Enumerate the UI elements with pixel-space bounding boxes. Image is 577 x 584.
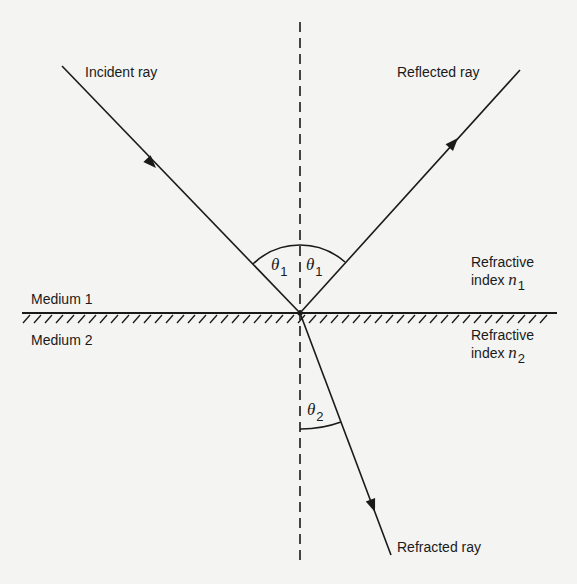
medium-1-label: Medium 1 xyxy=(31,291,92,307)
hatch-mark xyxy=(452,315,459,323)
hatch-mark xyxy=(155,315,162,323)
theta-symbol: θ xyxy=(271,255,279,274)
hatch-mark xyxy=(100,315,107,323)
refraction-angle-label: θ2 xyxy=(307,400,324,420)
hatch-mark xyxy=(122,315,129,323)
n-symbol: n xyxy=(508,270,517,289)
reflection-angle-label: θ1 xyxy=(306,255,323,275)
n-symbol: n xyxy=(508,343,517,362)
hatch-mark xyxy=(331,315,338,323)
hatch-mark xyxy=(89,315,96,323)
index-prefix: index xyxy=(471,345,508,361)
refractive-index-1-line1: Refractive xyxy=(471,254,534,271)
interface-hatching xyxy=(23,315,547,323)
hatch-mark xyxy=(221,315,228,323)
hatch-mark xyxy=(540,315,547,323)
refracted-ray-label: Refracted ray xyxy=(397,539,481,555)
hatch-mark xyxy=(133,315,140,323)
point-of-incidence xyxy=(297,310,302,315)
refractive-index-1-line2: index n1 xyxy=(471,271,534,289)
hatch-mark xyxy=(210,315,217,323)
theta-subscript: 2 xyxy=(316,409,323,424)
n-subscript: 1 xyxy=(518,278,525,293)
hatch-mark xyxy=(254,315,261,323)
hatch-mark xyxy=(474,315,481,323)
hatch-mark xyxy=(276,315,283,323)
hatch-mark xyxy=(496,315,503,323)
refracted-arrowhead-icon xyxy=(366,498,380,514)
hatch-mark xyxy=(353,315,360,323)
hatch-mark xyxy=(166,315,173,323)
hatch-mark xyxy=(287,315,294,323)
incident-arrowhead-icon xyxy=(143,155,159,171)
n-subscript: 2 xyxy=(518,351,525,366)
incident-ray xyxy=(62,66,300,313)
refractive-index-1-label: Refractive index n1 xyxy=(471,254,534,289)
refracted-ray xyxy=(300,313,391,555)
hatch-mark xyxy=(199,315,206,323)
hatch-mark xyxy=(320,315,327,323)
hatch-mark xyxy=(375,315,382,323)
hatch-mark xyxy=(342,315,349,323)
theta-symbol: θ xyxy=(307,400,315,419)
hatch-mark xyxy=(430,315,437,323)
theta-symbol: θ xyxy=(306,255,314,274)
refractive-index-2-label: Refractive index n2 xyxy=(471,327,534,362)
hatch-mark xyxy=(529,315,536,323)
medium-2-label: Medium 2 xyxy=(31,332,92,348)
hatch-mark xyxy=(34,315,41,323)
hatch-mark xyxy=(408,315,415,323)
hatch-mark xyxy=(56,315,63,323)
hatch-mark xyxy=(232,315,239,323)
index-prefix: index xyxy=(471,272,508,288)
hatch-mark xyxy=(45,315,52,323)
reflected-ray-label: Reflected ray xyxy=(397,64,479,80)
hatch-mark xyxy=(111,315,118,323)
hatch-mark xyxy=(441,315,448,323)
hatch-mark xyxy=(364,315,371,323)
hatch-mark xyxy=(397,315,404,323)
refractive-index-2-line1: Refractive xyxy=(471,327,534,344)
hatch-mark xyxy=(177,315,184,323)
hatch-mark xyxy=(309,315,316,323)
refractive-index-2-line2: index n2 xyxy=(471,344,534,362)
hatch-mark xyxy=(144,315,151,323)
hatch-mark xyxy=(23,315,30,323)
hatch-mark xyxy=(507,315,514,323)
hatch-mark xyxy=(67,315,74,323)
hatch-mark xyxy=(386,315,393,323)
hatch-mark xyxy=(518,315,525,323)
hatch-mark xyxy=(243,315,250,323)
hatch-mark xyxy=(265,315,272,323)
incidence-angle-label: θ1 xyxy=(271,255,288,275)
hatch-mark xyxy=(188,315,195,323)
hatch-mark xyxy=(78,315,85,323)
hatch-mark xyxy=(419,315,426,323)
theta-subscript: 1 xyxy=(280,264,287,279)
incident-ray-label: Incident ray xyxy=(85,64,157,80)
hatch-mark xyxy=(463,315,470,323)
theta-subscript: 1 xyxy=(315,264,322,279)
hatch-mark xyxy=(485,315,492,323)
